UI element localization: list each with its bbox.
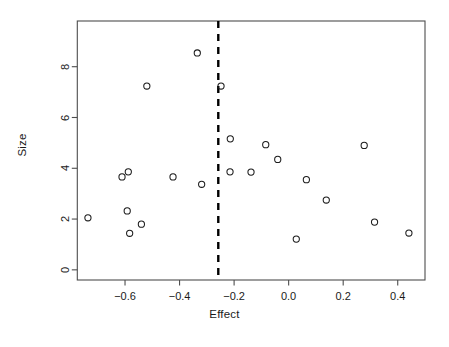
x-tick-label: 0.0 <box>281 290 296 302</box>
data-point <box>361 142 367 148</box>
x-tick-label: −0.2 <box>223 290 245 302</box>
y-tick-label: 4 <box>0 162 68 174</box>
data-point <box>293 236 299 242</box>
data-point <box>127 230 133 236</box>
y-axis-title-wrapper: Size <box>14 75 30 215</box>
y-tick-label: 8 <box>0 61 68 73</box>
data-point <box>227 169 233 175</box>
data-point <box>371 219 377 225</box>
data-point <box>303 177 309 183</box>
data-point <box>406 230 412 236</box>
x-tick-label: 0.4 <box>390 290 405 302</box>
data-point <box>85 215 91 221</box>
data-point <box>323 197 329 203</box>
data-point <box>125 169 131 175</box>
y-tick-label: 0 <box>0 264 68 276</box>
x-tick-label: −0.6 <box>114 290 136 302</box>
data-point <box>227 136 233 142</box>
data-point <box>170 174 176 180</box>
y-tick-label: 2 <box>0 213 68 225</box>
data-point <box>194 50 200 56</box>
data-point <box>248 169 254 175</box>
plot-frame <box>77 21 425 280</box>
data-point <box>144 83 150 89</box>
x-tick-label: −0.4 <box>169 290 191 302</box>
y-axis-title: Size <box>16 133 28 156</box>
data-point <box>138 221 144 227</box>
scatter-plot-figure: −0.6−0.4−0.20.00.20.4 02468 Effect Size <box>0 0 449 347</box>
data-points <box>85 50 412 242</box>
axis-ticks <box>72 67 398 286</box>
x-axis-title: Effect <box>0 308 449 320</box>
x-tick-label: 0.2 <box>336 290 351 302</box>
data-point <box>124 208 130 214</box>
data-point <box>199 181 205 187</box>
data-point <box>119 174 125 180</box>
y-tick-label: 6 <box>0 112 68 124</box>
data-point <box>275 156 281 162</box>
data-point <box>263 142 269 148</box>
